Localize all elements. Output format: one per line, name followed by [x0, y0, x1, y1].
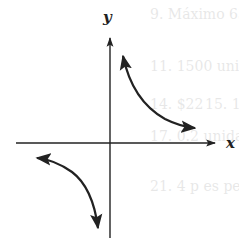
- hyperbola-branch-quadrant-1: [123, 56, 195, 128]
- y-axis-label: y: [103, 8, 112, 26]
- chart-canvas: [0, 0, 239, 243]
- x-axis-label: x: [226, 134, 235, 152]
- hyperbola-branch-quadrant-3: [37, 158, 98, 228]
- hyperbola-figure: 9. Máximo 63 grandes 11. 1500 unidades p…: [0, 0, 239, 243]
